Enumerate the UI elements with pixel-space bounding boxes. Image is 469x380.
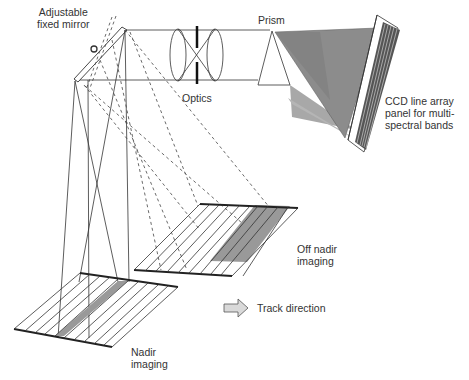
optics-label: Optics: [182, 92, 212, 104]
ccd-label-line2: panel for multi-: [385, 107, 465, 119]
prism-label: Prism: [258, 14, 285, 26]
nadir-footprint: [14, 273, 178, 347]
pushbroom-scanner-diagram: [0, 0, 469, 380]
track-direction-arrow-icon: [224, 299, 248, 317]
track-direction-label: Track direction: [257, 302, 325, 314]
nadir-label-line1: Nadir: [131, 346, 168, 358]
mirror-label-line2: fixed mirror: [37, 18, 90, 30]
off-nadir-label: Off nadir imaging: [297, 243, 337, 267]
mirror-label-line1: Adjustable: [37, 6, 90, 18]
ccd-label: CCD line array panel for multi- spectral…: [385, 95, 465, 131]
pivot-icon: [91, 46, 97, 52]
nadir-label-line2: imaging: [131, 358, 168, 370]
off-nadir-footprint: [134, 204, 298, 276]
nadir-label: Nadir imaging: [131, 346, 168, 370]
mirror-label: Adjustable fixed mirror: [37, 6, 90, 30]
ccd-label-line3: spectral bands: [385, 119, 465, 131]
off-nadir-label-line2: imaging: [297, 255, 337, 267]
off-nadir-label-line1: Off nadir: [297, 243, 337, 255]
optics-lens-assembly: [170, 26, 223, 84]
optical-beam: [75, 30, 270, 80]
ccd-label-line1: CCD line array: [385, 95, 465, 107]
